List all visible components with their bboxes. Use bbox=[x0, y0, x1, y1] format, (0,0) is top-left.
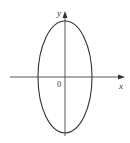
y-axis-label: y bbox=[56, 8, 61, 18]
origin-label: 0 bbox=[57, 79, 61, 89]
x-axis-arrow-icon bbox=[118, 75, 125, 80]
y-axis-arrow-icon bbox=[63, 11, 68, 18]
diagram-canvas: y x 0 bbox=[0, 0, 130, 143]
x-axis-label: x bbox=[118, 81, 123, 91]
ellipse-diagram: y x 0 bbox=[0, 0, 130, 143]
